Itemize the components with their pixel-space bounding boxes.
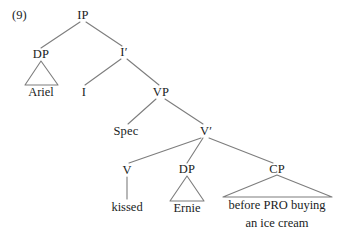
node-ip: IP (77, 8, 89, 22)
terminal-ariel: Ariel (28, 85, 54, 99)
node-cp: CP (269, 162, 285, 176)
triangle-dp-ernie (170, 176, 204, 201)
terminal-kissed: kissed (111, 200, 142, 214)
branch-vbar-v (129, 138, 201, 163)
terminal-cp-line1: before PRO buying (228, 198, 325, 213)
node-spec: Spec (113, 124, 138, 138)
branch-vp-spec (128, 99, 156, 124)
node-dp-subject: DP (33, 47, 49, 61)
node-v-head: V (122, 163, 131, 177)
branch-vbar-cp (209, 138, 273, 163)
node-i-bar: I′ (120, 45, 127, 59)
terminal-ernie: Ernie (173, 201, 200, 215)
terminal-cp-line2: an ice cream (245, 216, 308, 231)
branch-ibar-vp (127, 59, 159, 85)
triangle-dp-ariel (25, 61, 58, 85)
branch-ibar-i (85, 59, 121, 85)
node-vp: VP (153, 85, 169, 99)
node-dp-object: DP (179, 162, 195, 176)
branch-vp-vbar (165, 99, 203, 124)
node-i-head: I (82, 85, 86, 99)
example-number: (9) (12, 8, 27, 22)
syntax-tree-figure: (9) IP DP Ariel I′ I VP Spec V′ V kissed… (0, 0, 339, 239)
node-v-bar: V′ (200, 124, 212, 138)
branch-ip-dp (41, 22, 80, 48)
branch-ip-ibar (86, 22, 122, 46)
triangle-cp-clause (223, 175, 332, 197)
